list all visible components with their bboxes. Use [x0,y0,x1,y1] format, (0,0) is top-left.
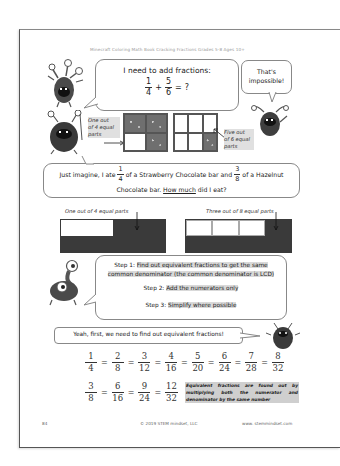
grid-cell-shaded [124,114,146,133]
fraction: 924 [138,382,150,402]
story-text-part2: of a Strawberry Chocolate bar and [126,171,233,178]
monster-steps-illustration [44,258,86,312]
left-shape-label: One out of 4 equal parts [88,117,120,138]
grid-cell-empty [188,133,202,152]
strawberry-bar [60,219,166,253]
step-3: Step 3: Simplify where possible [96,302,286,308]
strawberry-chocolate-grid [123,113,168,152]
bar-cell-shaded [61,236,113,252]
grid-cell-empty [174,133,188,152]
right-bar-arrow-icon [273,212,279,232]
bar-cell-empty [186,220,212,236]
step-2: Step 2: Add the numerators only [96,285,286,291]
monster-middle-left-illustration [44,110,86,159]
steps-speech-bubble: Step 1: Find out equivalent fractions to… [95,255,287,320]
website: www. stemmindset.com [242,421,292,426]
book-title-header: Minecraft Coloring Math Book Cracking Fr… [90,47,245,52]
story-text-part3: of a Hazelnut [242,171,283,178]
fraction: 832 [272,352,284,372]
reply-line-1: That's [242,67,291,76]
question-mark: ? [185,83,189,92]
reply-speech-bubble: That's impossible! [241,60,292,94]
equivalent-fractions-note: Equivalent fractions are found out by mu… [185,382,299,403]
right-shape-label: Five out of 6 equal parts [224,129,254,150]
fraction-three-eighths: 38 [234,166,240,182]
equivalents-row-quarter: 14 = 28 = 312 = 416 = 520 = 624 = 728 = … [84,352,285,372]
fraction: 520 [192,352,204,372]
intro-text: I need to add fractions: [96,66,238,75]
grid-cell-empty [124,133,146,152]
bar-cell-empty [61,220,113,236]
fraction: 14 [85,352,97,372]
step-1-continued: common denominator (the common denominat… [96,270,286,279]
intro-bubble-tail [82,96,100,110]
bar-cell-shaded [212,236,238,252]
fraction: 728 [245,352,257,372]
fraction-five-sixths: 56 [165,78,172,97]
story-text-part1: Just imagine, I ate [59,171,115,178]
story-line2-underline: How much [163,186,196,193]
left-bar-arrow-icon [134,212,140,232]
bar-cell-shaded [113,236,165,252]
grid-cell-empty [174,114,188,133]
fraction: 38 [85,382,97,402]
monster-icon [44,58,86,108]
fraction: 416 [165,352,177,372]
story-line2-pre: Chocolate bar. [117,186,162,193]
bar-cell-shaded [265,236,291,252]
monster-icon [266,321,300,353]
monster-icon [44,258,86,308]
plus-sign: + [155,83,162,92]
yeah-text: Yeah, first, we need to find out equival… [55,331,242,337]
intro-speech-bubble: I need to add fractions: 14 + 56 = ? [95,59,239,111]
monster-icon [250,98,290,140]
copyright: © 2019 STEM mindset, LLC [140,421,198,426]
fraction-one-quarter: 14 [145,78,152,97]
bar-cell-empty [239,220,265,236]
bar-cell-shaded [239,236,265,252]
fraction: 28 [112,352,124,372]
grid-cell-shaded [146,114,168,133]
yeah-bubble-tail [240,332,262,340]
grid-cell-shaded [146,133,168,152]
fraction: 616 [112,382,124,402]
steps-bubble-tail [82,293,98,307]
fraction: 312 [138,352,150,372]
fraction: 1232 [165,382,178,402]
yeah-speech-bubble: Yeah, first, we need to find out equival… [54,327,243,344]
page-number: 84 [42,421,47,426]
story-speech-bubble: Just imagine, I ate 14 of a Strawberry C… [43,163,300,198]
story-bubble-tail [80,155,96,165]
step-1: Step 1: Find out equivalent fractions to… [96,261,286,270]
monster-top-left-illustration [44,58,86,112]
story-line2-post: did I eat? [198,186,227,193]
intro-equation: 14 + 56 = ? [96,78,238,97]
fraction: 624 [219,352,231,372]
right-bar-caption: Three out of 8 equal parts [206,208,274,214]
monster-top-right-illustration [250,98,290,144]
bar-cell-empty [212,220,238,236]
reply-line-2: impossible! [242,76,291,85]
monster-icon [44,110,86,155]
left-bar-caption: One out of 4 equal parts [65,208,128,214]
fraction-one-quarter: 14 [117,166,123,182]
equivalents-row-three-eighths: 38 = 616 = 924 = 1232 [84,382,179,402]
grid-cell-empty [188,114,202,133]
bar-cell-shaded [186,236,212,252]
equals-sign: = [175,83,182,92]
